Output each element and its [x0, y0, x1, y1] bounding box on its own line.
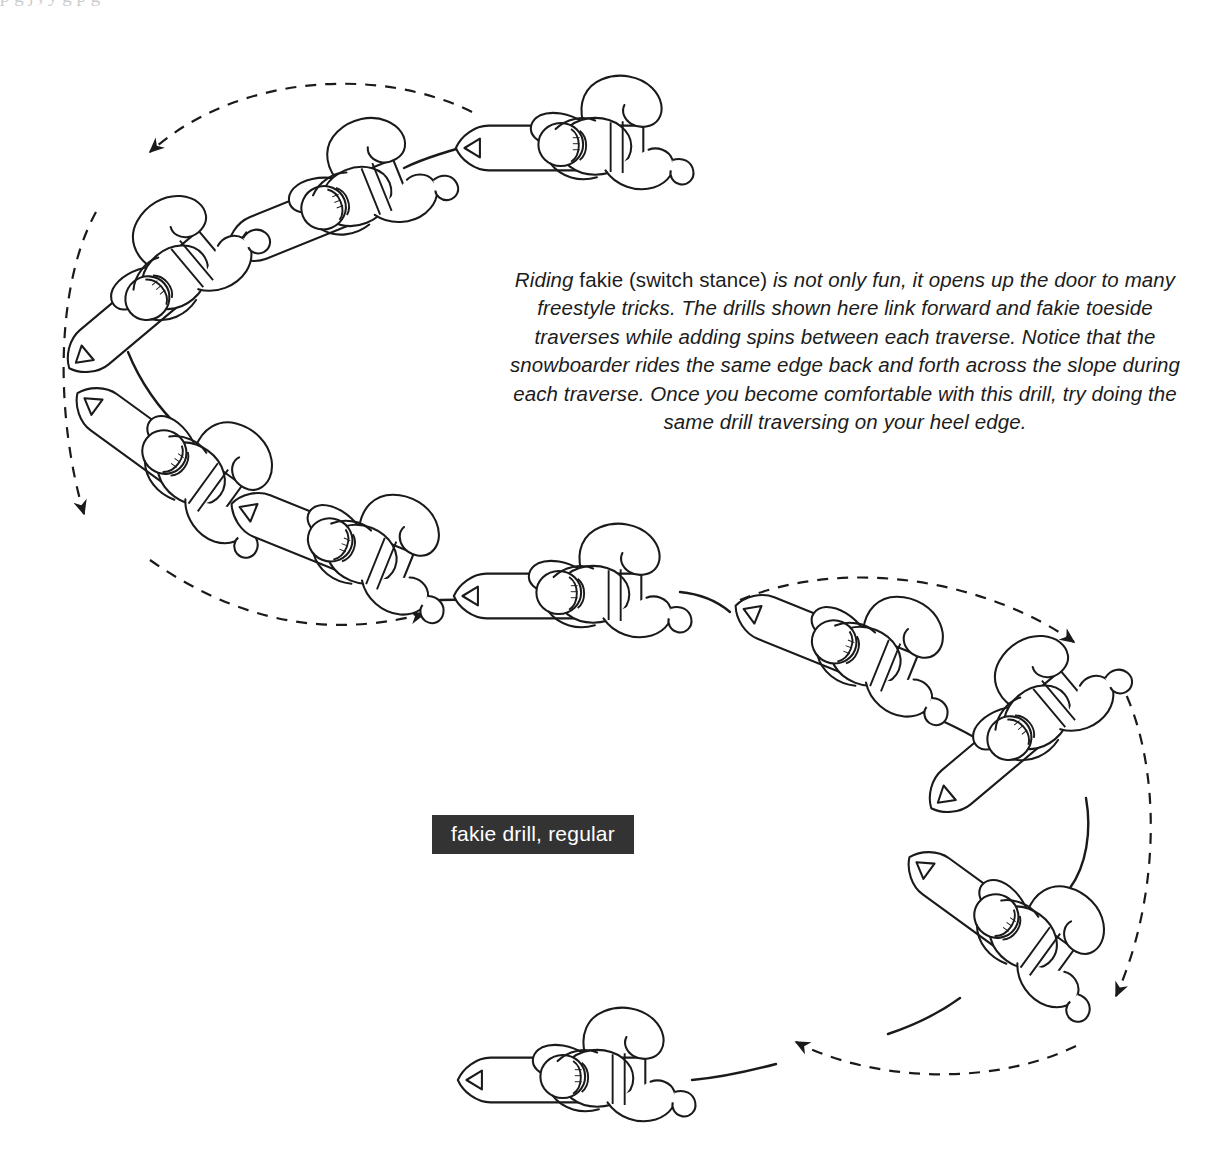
rider-group	[23, 76, 1144, 1122]
figure-caption-tag: fakie drill, regular	[432, 815, 634, 854]
explanatory-paragraph: Riding fakie (switch stance) is not only…	[500, 266, 1190, 436]
rider-center	[454, 524, 692, 638]
paragraph-lead: Riding	[515, 268, 580, 291]
rider-top-right	[456, 76, 694, 190]
figure-root: p g j , y g p g	[0, 0, 1214, 1160]
figure-caption-label: fakie drill, regular	[451, 822, 615, 846]
spin-arc-top-left	[150, 84, 472, 152]
rider-right-lower	[885, 799, 1144, 1031]
rider-bottom	[458, 1008, 696, 1122]
paragraph-rest: is not only fun, it opens up the door to…	[510, 268, 1180, 433]
rider-right-upper	[720, 539, 983, 733]
rider-upper-left	[23, 160, 278, 400]
spin-arc-right	[1116, 678, 1151, 996]
paragraph-upright-phrase: fakie (switch stance)	[579, 268, 767, 291]
spin-arc-bottom	[796, 1042, 1076, 1074]
snowboard-drill-diagram	[0, 0, 1214, 1160]
